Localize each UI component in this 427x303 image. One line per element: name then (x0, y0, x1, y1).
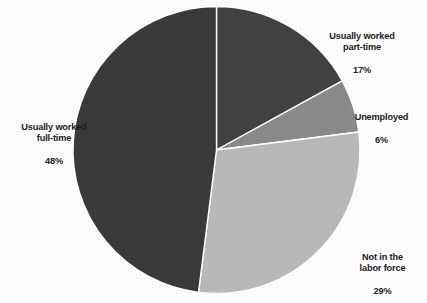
slice-label-part-time-value: 17% (301, 65, 423, 77)
slice-label-full-time-name: Usually worked full-time (2, 122, 106, 145)
slice-label-not-in-labor-force-name: Not in the labor force (338, 252, 427, 275)
slice-label-unemployed-value: 6% (336, 135, 427, 147)
slice-label-part-time: Usually worked part-time 17% (301, 19, 423, 89)
slice-label-not-in-labor-force: Not in the labor force 29% (338, 240, 427, 303)
slice-label-full-time-value: 48% (2, 156, 106, 168)
slice-label-unemployed: Unemployed 6% (336, 100, 427, 158)
pie-chart: Usually worked part-time 17% Unemployed … (0, 0, 427, 303)
slice-label-unemployed-name: Unemployed (336, 112, 427, 124)
slice-label-full-time: Usually worked full-time 48% (2, 110, 106, 180)
chart-page: Usually worked part-time 17% Unemployed … (0, 0, 427, 303)
slice-label-part-time-name: Usually worked part-time (301, 31, 423, 54)
slice-label-not-in-labor-force-value: 29% (338, 286, 427, 298)
